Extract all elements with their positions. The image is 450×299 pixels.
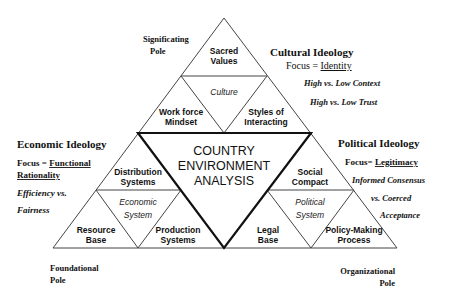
center-title-line-2: ENVIRONMENT [178,159,271,173]
political-dimension-2: vs. Coerced [371,193,412,203]
culture-left-line-1: Work force [159,107,204,117]
political-left-line-1: Legal [257,225,279,235]
foundational-pole-line-2: Pole [50,275,66,285]
political-dimension-3: Acceptance [379,210,420,220]
cultural-focus: Focus = Identity [286,60,352,71]
political-ideology-title: Political Ideology [338,137,420,149]
center-title-line-3: ANALYSIS [194,174,254,188]
political-system-label-line-1: Political [295,197,325,207]
country-environment-diagram: COUNTRY ENVIRONMENT ANALYSIS Sacred Valu… [0,0,450,299]
culture-top-line-2: Values [211,56,238,66]
political-dimension-1: Informed Consensus [351,175,426,185]
economic-top-line-2: Systems [121,177,156,187]
economic-ideology-title: Economic Ideology [17,138,107,150]
organizational-pole-line-1: Organizational [340,266,395,276]
political-system-label-line-2: System [296,210,324,220]
economic-left-line-1: Resource [77,225,116,235]
signifying-pole-line-2: Pole [150,46,166,56]
economic-top-line-1: Distribution [114,167,162,177]
organizational-pole-line-2: Pole [379,278,395,288]
economic-left-line-2: Base [86,235,107,245]
culture-top-line-1: Sacred [210,46,238,56]
economic-system-label-line-1: Economic [119,197,157,207]
economic-dimension-1: Efficiency vs. [16,188,67,198]
economic-right-line-1: Production [156,225,201,235]
economic-dimension-2: Fairness [16,205,50,215]
cultural-dimension-1: High vs. Low Context [303,78,381,88]
cultural-ideology-title: Cultural Ideology [270,46,354,58]
economic-system-label-line-2: System [124,210,152,220]
political-top-line-2: Compact [292,177,329,187]
political-right-line-2: Process [337,235,370,245]
economic-right-line-2: Systems [161,235,196,245]
culture-right-line-1: Styles of [248,107,284,117]
political-left-line-2: Base [258,235,279,245]
political-right-line-1: Policy-Making [325,225,382,235]
culture-system-label: Culture [210,87,238,97]
culture-right-line-2: Interacting [244,117,287,127]
culture-left-line-2: Mindset [165,117,197,127]
signifying-pole-line-1: Significating [143,34,190,44]
economic-focus-line-2: Rationality [17,170,61,180]
economic-focus-line-1: Focus = Functional [17,158,91,168]
political-focus: Focus= Legitimacy [345,157,418,167]
cultural-dimension-2: High vs. Low Trust [309,97,378,107]
center-title-line-1: COUNTRY [193,144,255,158]
political-top-line-1: Social [297,167,322,177]
foundational-pole-line-1: Foundational [50,263,99,273]
